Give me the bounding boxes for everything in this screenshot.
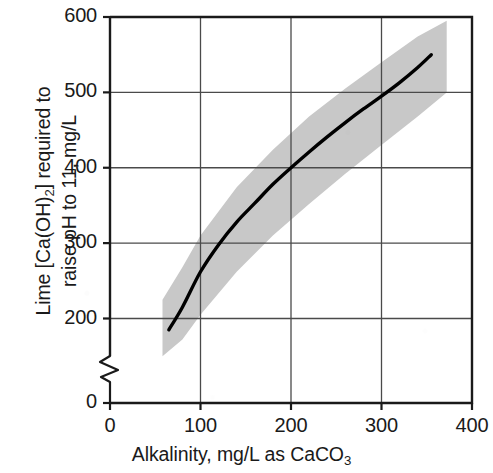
x-axis-title: Alkalinity, mg/L as CaCO3 [0, 443, 483, 466]
y-tick-label: 300 [45, 230, 97, 253]
y-axis-title-subscript: 2 [42, 189, 57, 196]
y-tick-label: 600 [45, 4, 97, 27]
y-tick-label: 400 [45, 155, 97, 178]
y-tick-label: 0 [45, 390, 97, 413]
y-tick-label: 500 [45, 79, 97, 102]
x-tick-label: 0 [75, 414, 145, 437]
x-axis-title-subscript: 3 [344, 453, 351, 468]
x-tick-label: 300 [347, 414, 417, 437]
y-tick-label: 200 [45, 306, 97, 329]
x-tick-label: 400 [437, 414, 493, 437]
x-tick-label: 100 [166, 414, 236, 437]
x-tick-label: 200 [256, 414, 326, 437]
